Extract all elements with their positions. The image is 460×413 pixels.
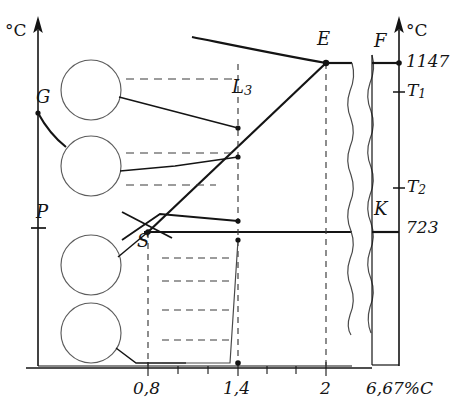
value-1147: 1147 (406, 53, 449, 70)
xtick-2: 2 (320, 380, 331, 397)
circle-1 (61, 60, 121, 120)
point-1147-marker (396, 60, 402, 66)
label-T1-base: T (407, 80, 418, 100)
label-L3-base: L (232, 76, 244, 97)
label-T1: T1 (407, 82, 426, 100)
point-mid-marker (235, 154, 240, 159)
diagram-canvas (0, 0, 460, 413)
label-T1-sub: 1 (418, 87, 426, 101)
x-axis-end-label: 6,67%C (366, 380, 433, 397)
xtick-0-8: 0,8 (133, 380, 160, 397)
guide-point-markers (145, 60, 329, 366)
label-K: K (374, 200, 387, 218)
circle-3 (61, 235, 121, 295)
label-L3-sub: 3 (244, 83, 252, 98)
point-bottom-marker (235, 360, 241, 366)
label-L3: L3 (232, 78, 252, 98)
label-T2: T2 (407, 178, 426, 196)
leader-circle-1 (119, 97, 238, 128)
tie-lines-lower (162, 258, 232, 340)
phase-diagram-figure: °C °C G P F K 1147 T1 T2 723 E L3 S 0,8 … (0, 0, 460, 413)
label-S: S (137, 232, 149, 250)
point-below-S-marker (235, 237, 240, 242)
value-723: 723 (406, 219, 438, 236)
point-eutectoid-marker (235, 218, 240, 223)
label-F: F (374, 32, 387, 50)
label-T2-base: T (407, 176, 418, 196)
left-temperature-axis (31, 16, 46, 366)
point-E-marker (323, 60, 329, 66)
label-P: P (36, 203, 48, 221)
leader-G (38, 113, 66, 147)
label-T2-sub: 2 (418, 183, 426, 197)
bottom-concentration-axis (26, 362, 372, 376)
leader-lines (116, 97, 238, 363)
label-E: E (317, 30, 330, 48)
leader-circle-4 (116, 348, 186, 363)
circle-4 (61, 303, 121, 363)
micrograph-circles (61, 60, 121, 363)
xtick-1-4: 1,4 (223, 380, 250, 397)
right-axis-unit: °C (406, 22, 428, 39)
circle-2 (61, 136, 121, 196)
right-temperature-axis (393, 16, 405, 366)
label-G: G (36, 88, 50, 106)
point-L3-marker (235, 125, 240, 130)
liquidus-curve (192, 37, 326, 63)
left-axis-unit: °C (5, 22, 27, 39)
